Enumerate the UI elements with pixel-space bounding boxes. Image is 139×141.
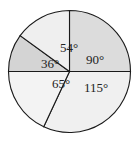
pie-chart: 90°115°65°36°54° <box>0 0 139 141</box>
slice-label: 36° <box>41 56 59 71</box>
slice-label: 115° <box>84 80 108 95</box>
slice-label: 65° <box>52 76 70 91</box>
slice-label: 54° <box>60 40 78 55</box>
pie-slices <box>8 11 130 133</box>
slice-label: 90° <box>86 52 104 67</box>
